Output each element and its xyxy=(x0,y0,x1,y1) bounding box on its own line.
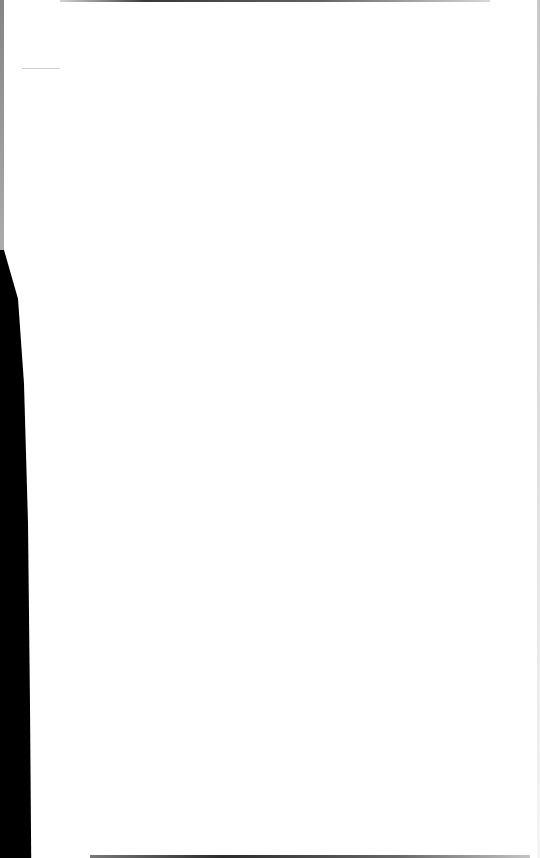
scanned-page xyxy=(0,0,540,858)
faint-scan-mark xyxy=(22,68,60,69)
scan-left-border xyxy=(0,0,4,260)
scan-top-edge xyxy=(60,0,490,2)
scan-left-shadow xyxy=(0,250,40,858)
